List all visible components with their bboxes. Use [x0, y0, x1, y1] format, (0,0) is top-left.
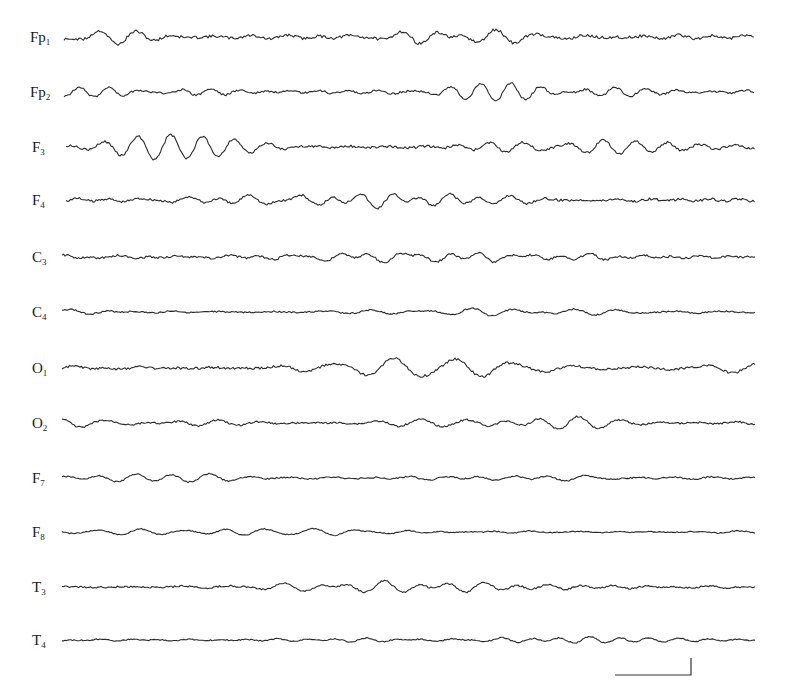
- channel-label-c3: C3: [32, 249, 47, 267]
- eeg-trace-f3: [66, 134, 755, 160]
- eeg-figure: Fp1Fp2F3F4C3C4O1O2F7F8T3T4: [0, 0, 785, 685]
- eeg-traces: [62, 29, 755, 643]
- eeg-trace-t4: [62, 637, 755, 644]
- eeg-trace-c4: [62, 308, 755, 316]
- channel-labels: Fp1Fp2F3F4C3C4O1O2F7F8T3T4: [30, 29, 50, 650]
- channel-label-t3: T3: [32, 579, 46, 597]
- channel-label-f4: F4: [32, 192, 45, 210]
- eeg-trace-f4: [66, 193, 755, 209]
- channel-label-fp1: Fp1: [30, 29, 50, 47]
- eeg-trace-fp2: [64, 83, 754, 101]
- channel-label-o1: O1: [32, 360, 47, 378]
- eeg-trace-t3: [62, 580, 755, 593]
- scale-bar: [615, 658, 691, 675]
- eeg-trace-f8: [62, 528, 755, 535]
- channel-label-f3: F3: [32, 139, 45, 157]
- channel-label-c4: C4: [32, 304, 47, 322]
- eeg-trace-c3: [62, 252, 755, 262]
- channel-label-fp2: Fp2: [30, 84, 50, 102]
- channel-label-o2: O2: [32, 415, 47, 433]
- channel-label-t4: T4: [32, 632, 46, 650]
- channel-label-f7: F7: [32, 470, 45, 488]
- eeg-trace-fp1: [64, 29, 754, 45]
- eeg-trace-f7: [62, 473, 755, 483]
- channel-label-f8: F8: [32, 524, 45, 542]
- eeg-trace-o2: [62, 416, 755, 429]
- eeg-trace-o1: [62, 358, 755, 378]
